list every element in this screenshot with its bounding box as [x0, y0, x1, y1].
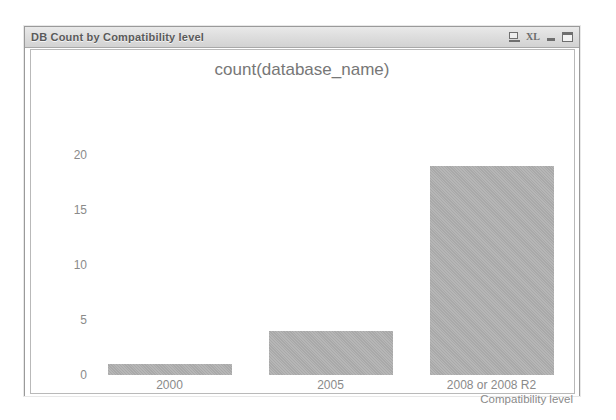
x-axis-title: Compatibility level	[480, 393, 573, 405]
y-axis-tick-label: 20	[74, 148, 87, 162]
bar-2008-or-2008-r2[interactable]	[430, 166, 554, 375]
window-title: DB Count by Compatibility level	[31, 31, 204, 43]
screen-icon[interactable]	[509, 32, 520, 42]
window-controls: XL	[509, 32, 575, 42]
minimize-button[interactable]	[546, 32, 556, 42]
application-window: DB Count by Compatibility level XL count…	[24, 26, 580, 396]
maximize-button[interactable]	[562, 32, 573, 42]
x-axis-tick-label: 2008 or 2008 R2	[447, 378, 536, 392]
y-axis-tick-label: 5	[80, 313, 87, 327]
bar-2005[interactable]	[269, 331, 393, 375]
window-title-bar[interactable]: DB Count by Compatibility level XL	[25, 27, 579, 48]
xl-icon[interactable]: XL	[526, 32, 540, 42]
chart-container: count(database_name) 05101520 2000200520…	[25, 48, 579, 396]
y-axis-tick-label: 15	[74, 203, 87, 217]
y-axis-tick-label: 10	[74, 258, 87, 272]
plot-area	[89, 148, 572, 375]
x-axis-tick-label: 2005	[317, 378, 344, 392]
x-axis-tick-label: 2000	[156, 378, 183, 392]
y-axis: 05101520	[55, 148, 89, 375]
chart-title: count(database_name)	[25, 60, 579, 80]
y-axis-tick-label: 0	[80, 368, 87, 382]
bar-2000[interactable]	[108, 364, 232, 375]
